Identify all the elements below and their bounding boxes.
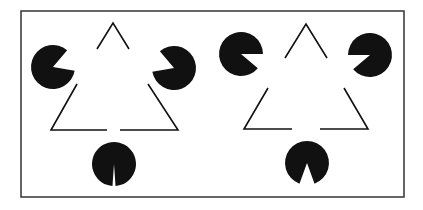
triangle-outline-segment-2 xyxy=(320,88,368,129)
pacman-inducer-2 xyxy=(92,142,136,186)
triangle-outline-segment-0 xyxy=(285,24,327,58)
illusion-svg xyxy=(0,0,423,210)
figure-frame xyxy=(21,11,404,197)
right-kanizsa-panel xyxy=(219,24,392,184)
pacman-inducer-2 xyxy=(285,141,329,184)
illusion-figure: Kanizsa triangle illusion comparison xyxy=(0,0,423,210)
triangle-outline-segment-1 xyxy=(51,84,107,130)
pacman-inducer-1 xyxy=(152,46,196,90)
triangle-outline-segment-1 xyxy=(244,88,292,129)
triangle-outline-segment-2 xyxy=(120,84,178,130)
triangle-outline-segment-0 xyxy=(97,23,129,49)
pacman-inducer-1 xyxy=(348,33,392,77)
pacman-inducer-0 xyxy=(219,32,263,76)
left-kanizsa-panel xyxy=(31,23,196,186)
pacman-inducer-0 xyxy=(31,45,75,89)
